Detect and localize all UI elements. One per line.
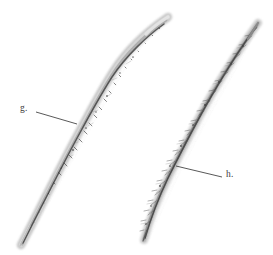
figure-label-h: h. (226, 170, 234, 180)
figure-label-g: g. (20, 104, 28, 114)
plate-illustration (0, 0, 273, 255)
specimen-plate: g. h. (0, 0, 273, 255)
